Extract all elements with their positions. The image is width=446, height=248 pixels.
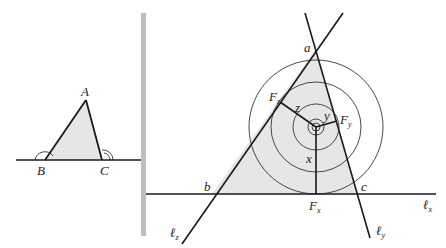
vertex-label-c: c — [361, 179, 367, 194]
distance-label-y: y — [322, 108, 330, 123]
diagram-canvas: A B C a b c Fz Fy Fx z y x ℓx ℓy ℓz — [0, 0, 446, 248]
left-triangle-figure — [16, 99, 142, 160]
foot-label-Fy: Fy — [339, 112, 352, 129]
line-label-ly: ℓy — [376, 223, 385, 240]
right-triangle-figure — [146, 13, 436, 244]
vertex-label-A: A — [80, 84, 89, 99]
vertex-label-C: C — [100, 163, 109, 178]
divider-bar — [141, 13, 146, 236]
distance-label-x: x — [305, 151, 312, 166]
foot-label-Fx: Fx — [308, 198, 321, 215]
angle-arc-C-inner — [104, 153, 110, 160]
foot-label-Fz: Fz — [268, 89, 281, 106]
vertex-label-B: B — [37, 163, 45, 178]
line-label-lz: ℓz — [170, 225, 179, 242]
distance-label-z: z — [294, 100, 300, 115]
vertex-label-b: b — [204, 179, 211, 194]
line-label-lx: ℓx — [423, 197, 432, 214]
vertex-label-a: a — [304, 40, 311, 55]
